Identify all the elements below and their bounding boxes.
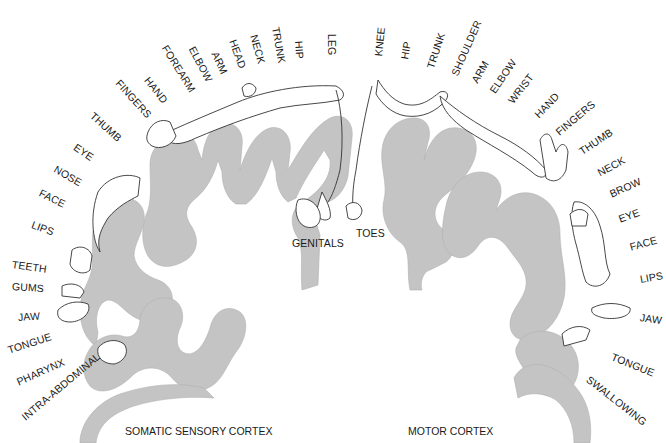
cortex-illustration xyxy=(0,0,666,443)
sensory-label-gums: GUMS xyxy=(12,280,45,294)
motor-cortex-title: MOTOR CORTEX xyxy=(408,425,493,437)
motor-label-toes: TOES xyxy=(356,227,385,239)
sensory-label-hip: HIP xyxy=(293,41,306,60)
sensory-cortex-title: SOMATIC SENSORY CORTEX xyxy=(125,425,272,437)
sensory-label-leg: LEG xyxy=(326,34,338,55)
sensory-label-jaw: JAW xyxy=(18,309,41,323)
homunculus-diagram: LEG HIP TRUNK NECK HEAD ARM ELBOW FOREAR… xyxy=(0,0,666,443)
sensory-cortex-shape xyxy=(80,116,352,443)
sensory-label-genitals: GENITALS xyxy=(292,237,344,249)
